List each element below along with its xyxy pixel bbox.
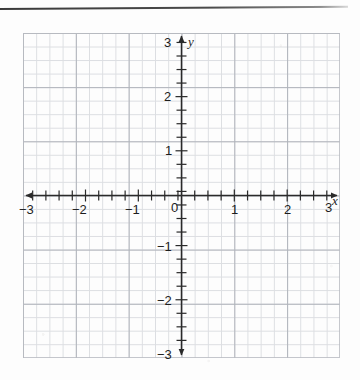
y-tick-label--3: −3 bbox=[157, 348, 172, 361]
coordinate-plane: −3 −2 −1 0 1 2 3 3 2 1 −1 −2 −3 y x bbox=[23, 33, 340, 358]
x-tick-label-1: 1 bbox=[231, 203, 238, 216]
y-tick-label-1: 1 bbox=[165, 144, 172, 157]
y-tick-label-3: 3 bbox=[164, 36, 171, 49]
x-tick-label--3: −3 bbox=[19, 203, 34, 216]
x-tick-label-2: 2 bbox=[284, 203, 291, 216]
x-axis-letter: x bbox=[332, 194, 338, 207]
axes-layer bbox=[23, 33, 340, 358]
worksheet-page: −3 −2 −1 0 1 2 3 3 2 1 −1 −2 −3 y x bbox=[0, 0, 360, 380]
origin-label: 0 bbox=[171, 201, 178, 214]
y-tick-label--1: −1 bbox=[157, 240, 172, 253]
x-tick-label--1: −1 bbox=[125, 203, 140, 216]
page-top-rule bbox=[0, 6, 348, 10]
y-tick-label-2: 2 bbox=[164, 90, 171, 103]
y-tick-label--2: −2 bbox=[157, 294, 172, 307]
x-tick-label--2: −2 bbox=[72, 203, 87, 216]
y-axis-letter: y bbox=[188, 35, 194, 48]
